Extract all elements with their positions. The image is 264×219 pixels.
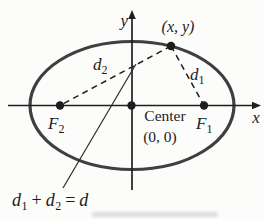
focus-f2-label-base: F [47, 114, 59, 133]
focus-f2-dot [56, 101, 64, 109]
d1-label-sub: 1 [199, 73, 205, 87]
eq-d2-sub: 2 [55, 199, 61, 213]
focus-f1-dot [200, 101, 208, 109]
cropped-caption-remnant [92, 212, 218, 217]
point-xy-label: (x, y) [162, 18, 195, 36]
focus-f2-label-sub: 2 [58, 122, 64, 136]
origin-label: (0, 0) [143, 128, 177, 146]
center-label: Center [144, 107, 186, 124]
figure-canvas: y x (x, y) d2 d1 F2 F1 Center (0, 0) d1+… [0, 0, 264, 219]
point-xy-dot [167, 42, 175, 50]
focus-f1-label-base: F [195, 114, 207, 133]
d2-label-sub: 2 [102, 63, 108, 77]
eq-equals-sign: = [65, 190, 75, 210]
eq-d1-base: d [12, 190, 22, 210]
eq-d2-base: d [46, 190, 56, 210]
center-dot [127, 101, 135, 109]
eq-d-result: d [79, 190, 89, 210]
ellipse-foci-diagram: y x (x, y) d2 d1 F2 F1 Center (0, 0) d1+… [0, 0, 264, 219]
eq-d1-sub: 1 [22, 199, 28, 213]
y-axis-label: y [118, 11, 128, 30]
eq-plus-sign: + [32, 190, 42, 210]
focus-f1-label-sub: 1 [206, 122, 212, 136]
x-axis-label: x [251, 108, 260, 127]
